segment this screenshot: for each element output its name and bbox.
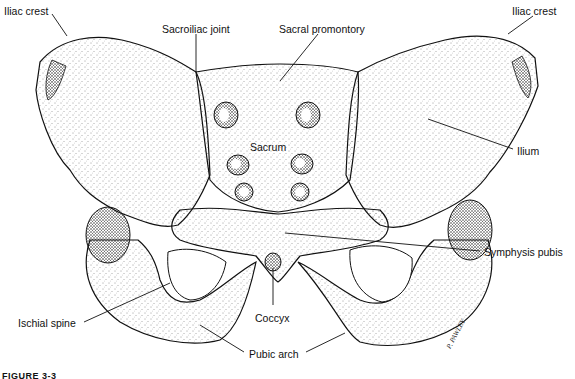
label-symphysis-pubis: Symphysis pubis [484, 247, 563, 258]
label-pubic-arch: Pubic arch [249, 349, 299, 360]
leader-line-pubic-arch-right [306, 333, 345, 352]
pelvis-diagram: Iliac crestSacroiliac jointSacral promon… [0, 0, 575, 379]
label-sacral-promontory: Sacral promontory [279, 24, 365, 35]
figure-caption: FIGURE 3-3 [2, 371, 57, 379]
label-sacroiliac-joint: Sacroiliac joint [162, 24, 230, 35]
leader-line-iliac-crest-right [508, 16, 533, 34]
label-coccyx: Coccyx [255, 313, 289, 324]
sacrum-bone [196, 64, 359, 212]
label-sacrum: Sacrum [250, 142, 286, 153]
right-ilium [346, 36, 538, 227]
label-iliac-crest-left: Iliac crest [4, 6, 48, 17]
label-ilium: Ilium [517, 146, 539, 157]
leader-line-iliac-crest-left [52, 14, 67, 36]
label-ischial-spine: Ischial spine [18, 318, 76, 329]
label-iliac-crest-right: Iliac crest [512, 6, 556, 17]
